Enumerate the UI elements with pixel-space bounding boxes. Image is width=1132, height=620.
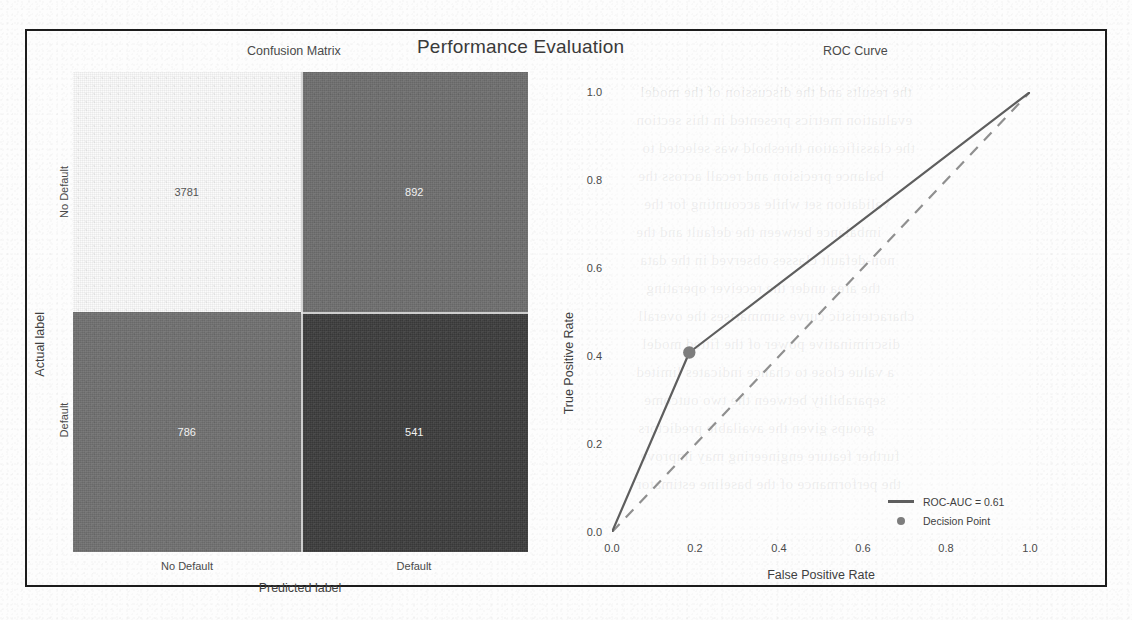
- decision-point-marker: [683, 346, 695, 358]
- roc-ytick-0: 0.0: [587, 526, 602, 538]
- cm-cell-true-negative: 3781: [73, 72, 301, 312]
- roc-curve-svg: [612, 92, 1030, 532]
- cm-value-tp: 541: [405, 426, 423, 438]
- roc-ytick-1: 0.2: [587, 438, 602, 450]
- cm-value-tn: 3781: [175, 186, 199, 198]
- cm-ytick-default: Default: [58, 403, 70, 438]
- roc-x-axis-label: False Positive Rate: [767, 568, 875, 582]
- roc-xtick-3: 0.6: [855, 542, 870, 554]
- cm-x-axis-label: Predicted label: [259, 581, 342, 595]
- legend-entry-decision-point: Decision Point: [888, 511, 1004, 530]
- cm-cell-divider-horizontal: [301, 312, 529, 314]
- cm-cell-false-positive: 892: [301, 72, 529, 312]
- scanned-page: the results and the discussion of the mo…: [0, 0, 1132, 620]
- roc-plot-area: [612, 92, 1030, 532]
- cm-ytick-no-default: No Default: [58, 166, 70, 218]
- legend-dot-icon: [888, 515, 914, 527]
- roc-xtick-1: 0.2: [687, 542, 702, 554]
- roc-curve-title: ROC Curve: [823, 44, 888, 58]
- legend-line-icon: [888, 496, 914, 508]
- roc-ytick-2: 0.4: [587, 350, 602, 362]
- cm-value-fp: 892: [405, 186, 423, 198]
- roc-xtick-5: 1.0: [1022, 542, 1037, 554]
- roc-xtick-2: 0.4: [771, 542, 786, 554]
- roc-ytick-3: 0.6: [587, 262, 602, 274]
- confusion-matrix-heatmap: 3781 892 786 541: [73, 72, 528, 552]
- roc-ytick-4: 0.8: [587, 174, 602, 186]
- cm-xtick-no-default: No Default: [161, 560, 213, 572]
- roc-y-axis-label: True Positive Rate: [562, 312, 576, 414]
- figure-suptitle: Performance Evaluation: [417, 36, 624, 58]
- roc-legend: ROC-AUC = 0.61 Decision Point: [888, 492, 1004, 530]
- cm-cell-false-negative: 786: [73, 312, 301, 552]
- confusion-matrix-title: Confusion Matrix: [247, 44, 341, 58]
- cm-xtick-default: Default: [397, 560, 432, 572]
- roc-xtick-0: 0.0: [604, 542, 619, 554]
- chance-diagonal-line: [612, 92, 1030, 532]
- legend-label-roc-auc: ROC-AUC = 0.61: [923, 496, 1004, 508]
- roc-xtick-4: 0.8: [938, 542, 953, 554]
- legend-entry-roc-auc: ROC-AUC = 0.61: [888, 492, 1004, 511]
- roc-ytick-5: 1.0: [587, 86, 602, 98]
- cm-value-fn: 786: [178, 426, 196, 438]
- cm-cell-true-positive: 541: [301, 312, 529, 552]
- legend-label-decision-point: Decision Point: [923, 515, 990, 527]
- cm-y-axis-label: Actual label: [33, 312, 47, 377]
